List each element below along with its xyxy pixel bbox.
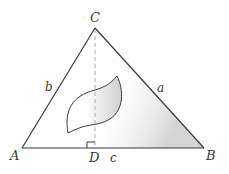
label-foot-d: D [88, 150, 100, 165]
label-side-c: c [110, 151, 117, 165]
label-vertex-b: B [205, 148, 216, 163]
label-vertex-a: A [9, 148, 19, 163]
label-vertex-c: C [90, 10, 100, 25]
label-side-b: b [45, 80, 53, 94]
triangle-diagram: C A B D c b a [0, 0, 229, 174]
label-side-a: a [157, 81, 164, 95]
